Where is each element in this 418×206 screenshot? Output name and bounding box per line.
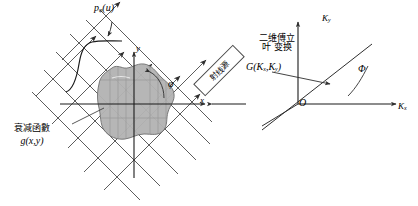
axis-x-label: x [200, 96, 204, 105]
G-label-leader [272, 72, 330, 84]
phi-angle-label: φ [168, 79, 174, 90]
axis-kx-label: Kx [398, 102, 407, 111]
axis-kx-neg [262, 104, 298, 126]
attenuation-label-cn: 衰减函數 [14, 123, 50, 133]
attenuation-leader-line [72, 108, 104, 124]
axis-y-label: y [136, 44, 140, 53]
diagram-vector-layer [0, 0, 418, 206]
attenuation-blob [95, 60, 180, 145]
ft-label-line2: 叶 变换 [248, 43, 306, 52]
projection-label-leader [108, 22, 112, 36]
fourier-transform-label: 二维傅立 叶 变换 [248, 34, 306, 53]
projection-function-label: pφ(u) [94, 3, 114, 14]
origin-label: O [299, 98, 306, 109]
axis-ky-label: Ky [322, 14, 331, 23]
figure-canvas: pφ(u) y x φ 衰减函數 g(x,y) 射线源 二维傅立 叶 变换 G(… [0, 0, 418, 206]
spectrum-function-label: G(Kx,Ky) [246, 62, 281, 73]
attenuation-label-formula: g(x,y) [14, 136, 50, 147]
attenuation-function-label: 衰减函數 g(x,y) [14, 118, 50, 146]
Phi-angle-label: Φ [358, 64, 366, 75]
